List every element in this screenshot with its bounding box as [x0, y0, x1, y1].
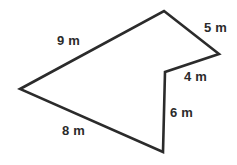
side-label-8m: 8 m [62, 124, 85, 138]
geometry-figure: 9 m 5 m 4 m 6 m 8 m [0, 0, 237, 165]
side-label-4m: 4 m [184, 70, 207, 84]
side-label-5m: 5 m [204, 21, 227, 35]
side-label-6m: 6 m [170, 106, 193, 120]
side-label-9m: 9 m [57, 34, 80, 48]
